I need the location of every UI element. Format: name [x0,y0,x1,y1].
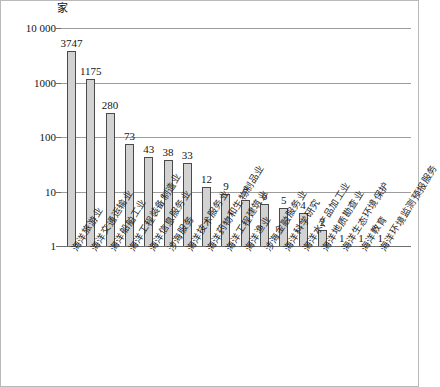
y-axis-tick-mark [56,83,61,84]
y-axis-tick-label: 1000 [1,78,56,89]
bar-value-label: 1175 [71,66,111,77]
y-axis-tick-label: 1 [1,241,56,252]
y-axis-tick-label: 100 [1,132,56,143]
bar [67,51,76,246]
bar-value-label: 33 [167,150,207,161]
bar-value-label: 3747 [52,38,92,49]
x-axis-category-labels: 海洋旅游业海洋交通运输业海洋船舶工业海洋工程装备制造业海洋信息服务业涉海服务海洋… [61,248,420,387]
y-axis-tick-labels: 110100100010 000 [1,28,56,246]
bar-value-label: 280 [90,100,130,111]
y-axis-tick-mark [56,192,61,193]
y-axis-tick-mark [56,246,61,247]
y-axis-tick-label: 10 000 [1,23,56,34]
y-axis-tick-label: 10 [1,187,56,198]
gridline [61,28,411,29]
y-axis-tick-mark [56,137,61,138]
y-axis-unit-label: 家 [57,2,68,14]
y-axis-tick-mark [56,28,61,29]
bar-value-label: 73 [109,131,149,142]
gridline [61,83,411,84]
